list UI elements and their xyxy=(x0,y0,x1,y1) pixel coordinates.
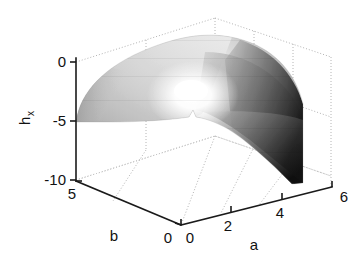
plot-canvas: 0 -5 -10 5 0 0 2 4 6 hx b a xyxy=(0,0,361,266)
z-axis-label: hx xyxy=(16,111,36,125)
a-axis-line xyxy=(181,187,332,225)
b-axis-line xyxy=(76,181,181,225)
a-axis-ticks xyxy=(181,181,332,225)
z-tick-label-minus10: -10 xyxy=(44,171,66,188)
z-axis-label-subscript: x xyxy=(25,111,36,116)
a-axis-label: a xyxy=(250,236,259,253)
grid-floor-a-1 xyxy=(113,150,146,201)
figure-3d-surface-plot: 0 -5 -10 5 0 0 2 4 6 hx b a xyxy=(0,0,361,266)
z-axis-label-base: h xyxy=(16,117,33,125)
b-tick-label-5: 5 xyxy=(68,185,76,202)
svg-text:hx: hx xyxy=(16,111,36,125)
a-tick-label-0: 0 xyxy=(186,229,194,246)
b-tick-0 xyxy=(175,223,181,225)
b-axis-label: b xyxy=(110,227,118,244)
grid-floor-diag xyxy=(181,136,215,225)
a-tick-label-6: 6 xyxy=(340,188,348,205)
a-tick-label-4: 4 xyxy=(276,204,284,221)
z-axis-ticks xyxy=(70,62,76,180)
grid-floor-b-1 xyxy=(221,147,254,213)
z-tick-label-0: 0 xyxy=(58,53,66,70)
z-tick-label-minus5: -5 xyxy=(53,112,66,129)
b-tick-label-0: 0 xyxy=(164,229,172,246)
a-tick-label-2: 2 xyxy=(224,217,232,234)
